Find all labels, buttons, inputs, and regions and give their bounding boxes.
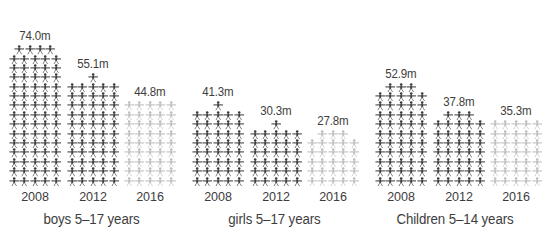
bar-column: 52.9m	[372, 68, 430, 186]
person-pictogram-icon	[511, 130, 521, 139]
pictogram-row	[9, 130, 61, 139]
person-pictogram-icon	[67, 130, 77, 139]
pictogram-row	[375, 177, 427, 186]
group-plot-area: 74.0m55.1m44.8m	[0, 0, 183, 186]
pictogram-row	[88, 73, 98, 82]
pictogram-row	[9, 92, 61, 101]
person-pictogram-icon	[9, 73, 19, 82]
chart-group-3: 52.9m37.8m35.3m200820122016Children 5–14…	[366, 0, 544, 245]
person-pictogram-icon	[192, 111, 202, 120]
person-pictogram-icon	[532, 167, 542, 176]
pictogram-row	[192, 130, 244, 139]
person-pictogram-icon	[234, 158, 244, 167]
pictogram-row	[250, 130, 302, 139]
pictogram-row	[192, 167, 244, 176]
person-pictogram-icon	[124, 177, 134, 186]
person-pictogram-icon	[109, 139, 119, 148]
x-axis-tick-label: 2008	[8, 188, 62, 205]
person-pictogram-icon	[19, 120, 29, 129]
person-pictogram-icon	[406, 148, 416, 157]
person-pictogram-icon	[443, 139, 453, 148]
person-pictogram-icon	[51, 55, 61, 64]
person-pictogram-icon	[124, 101, 134, 110]
person-pictogram-icon	[9, 120, 19, 129]
person-pictogram-icon	[67, 158, 77, 167]
person-pictogram-icon	[307, 139, 317, 148]
person-pictogram-icon	[464, 148, 474, 157]
person-pictogram-icon	[88, 130, 98, 139]
person-pictogram-icon	[155, 148, 165, 157]
person-pictogram-icon	[385, 177, 395, 186]
person-pictogram-icon	[145, 130, 155, 139]
person-pictogram-icon	[475, 167, 485, 176]
pictogram-row	[192, 120, 244, 129]
pictogram-row	[213, 101, 223, 110]
person-pictogram-icon	[317, 177, 327, 186]
person-pictogram-icon	[454, 177, 464, 186]
bar-value-label: 41.3m	[202, 86, 233, 99]
pictogram-stack	[307, 130, 359, 186]
person-pictogram-icon	[375, 120, 385, 129]
person-pictogram-icon	[166, 139, 176, 148]
person-pictogram-icon	[260, 167, 270, 176]
person-pictogram-icon	[406, 139, 416, 148]
person-pictogram-icon	[532, 148, 542, 157]
pictogram-row	[490, 177, 542, 186]
pictogram-row	[67, 120, 119, 129]
bar-column: 41.3m	[189, 86, 247, 186]
person-pictogram-icon	[145, 148, 155, 157]
person-pictogram-icon	[475, 148, 485, 157]
person-pictogram-icon	[443, 120, 453, 129]
person-pictogram-icon	[375, 158, 385, 167]
pictogram-row	[9, 55, 61, 64]
person-pictogram-icon	[30, 158, 40, 167]
person-pictogram-icon	[166, 130, 176, 139]
person-pictogram-icon	[40, 177, 50, 186]
person-pictogram-icon	[396, 111, 406, 120]
person-pictogram-icon	[396, 101, 406, 110]
person-pictogram-icon	[406, 167, 416, 176]
person-pictogram-icon	[109, 148, 119, 157]
person-pictogram-icon	[192, 158, 202, 167]
pictogram-row	[250, 148, 302, 157]
person-pictogram-icon	[9, 177, 19, 186]
person-pictogram-icon	[40, 101, 50, 110]
person-pictogram-icon	[396, 177, 406, 186]
person-pictogram-icon	[30, 139, 40, 148]
person-pictogram-icon	[67, 92, 77, 101]
person-pictogram-icon	[30, 83, 40, 92]
person-pictogram-icon	[532, 158, 542, 167]
pictogram-row	[490, 120, 542, 129]
person-pictogram-icon	[30, 64, 40, 73]
person-pictogram-icon	[202, 139, 212, 148]
person-pictogram-icon	[532, 130, 542, 139]
person-pictogram-icon	[109, 101, 119, 110]
pictogram-row	[490, 167, 542, 176]
person-pictogram-icon	[77, 120, 87, 129]
person-pictogram-icon	[134, 158, 144, 167]
person-pictogram-icon	[396, 120, 406, 129]
pictogram-row	[67, 139, 119, 148]
person-pictogram-icon	[202, 148, 212, 157]
pictogram-stack	[490, 120, 542, 186]
x-axis-year-labels: 200820122016	[366, 188, 544, 206]
person-pictogram-icon	[307, 177, 317, 186]
x-axis-tick-label: 2012	[432, 188, 486, 205]
x-axis-tick-label: 2016	[306, 188, 360, 205]
person-pictogram-icon	[98, 167, 108, 176]
person-pictogram-icon	[396, 148, 406, 157]
person-pictogram-icon	[19, 64, 29, 73]
person-pictogram-icon	[433, 158, 443, 167]
person-pictogram-icon	[417, 167, 427, 176]
pictogram-row	[250, 158, 302, 167]
person-pictogram-icon	[109, 158, 119, 167]
person-pictogram-icon	[51, 111, 61, 120]
group-plot-area: 52.9m37.8m35.3m	[366, 0, 544, 186]
person-pictogram-icon	[166, 158, 176, 167]
person-pictogram-icon	[385, 130, 395, 139]
person-pictogram-icon	[260, 177, 270, 186]
group-caption: Children 5–14 years	[370, 210, 539, 228]
person-pictogram-icon	[30, 167, 40, 176]
person-pictogram-icon	[511, 139, 521, 148]
person-pictogram-icon	[396, 158, 406, 167]
